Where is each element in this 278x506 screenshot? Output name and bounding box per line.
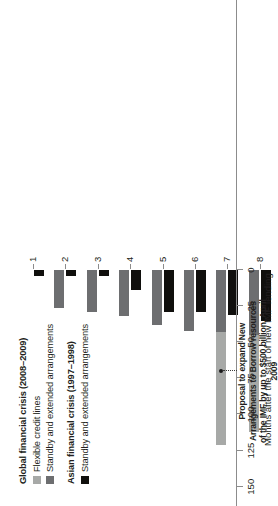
legend-swatch-icon [46,476,54,484]
category-tick [98,264,99,269]
category-tick-label: 7 [221,242,232,262]
legend-item-label: Standby and extended arrangements [45,324,56,472]
bar-segment-flexible-credit-lines [216,332,226,445]
bar-segment-standby-asian-crisis [131,270,141,290]
legend-swatch-icon [33,476,41,484]
category-tick-label: 2 [59,242,70,262]
legend-group-gap [57,294,66,484]
category-tick-label: 3 [92,242,103,262]
category-tick [33,264,34,269]
category-tick-label: 5 [157,242,168,262]
bar-segment-standby-gfc [152,270,162,325]
category-tick-label: 6 [189,242,200,262]
value-tick [236,269,243,270]
bar-segment-standby-asian-crisis [66,270,76,276]
legend-group-title: Asian financial crisis (1997–1998) [66,294,76,484]
bar-segment-standby-gfc [119,270,129,316]
category-tick [227,264,228,269]
bar-segment-standby-asian-crisis [99,270,109,276]
bar-segment-standby-asian-crisis [34,270,44,276]
category-tick [130,264,131,269]
bar-segment-standby-gfc [184,270,194,331]
value-tick-label: 150 [245,470,256,504]
annotation-leader-line [223,370,237,371]
chart-rotated-canvas: 0255075100125150 123456789101112131415 M… [0,0,278,506]
category-tick [65,264,66,269]
category-tick-label: 8 [254,242,265,262]
category-tick [195,264,196,269]
legend-item[interactable]: Standby and extended arrangements [45,294,56,484]
legend-item[interactable]: Standby and extended arrangements [80,294,91,484]
category-tick [260,264,261,269]
legend-item-label: Standby and extended arrangements [80,324,91,472]
chart-legend: Global financial crisis (2008–2009)Flexi… [18,294,93,484]
category-tick-label: 1 [27,242,38,262]
legend-swatch-icon [81,476,89,484]
legend-item-label: Flexible credit lines [32,396,43,472]
bar-segment-standby-asian-crisis [164,270,174,312]
category-tick [163,264,164,269]
bar-segment-standby-gfc [216,270,226,332]
annotation-text: Proposal to expand New Arrangements to B… [237,297,278,445]
category-tick-label: 4 [124,242,135,262]
legend-group-title: Global financial crisis (2008–2009) [18,294,28,484]
legend-item[interactable]: Flexible credit lines [32,294,43,484]
bar-segment-standby-asian-crisis [196,270,206,312]
bar-chart-plot: 0255075100125150 123456789101112131415 M… [0,0,278,506]
value-tick [236,486,243,487]
value-tick [236,450,243,451]
